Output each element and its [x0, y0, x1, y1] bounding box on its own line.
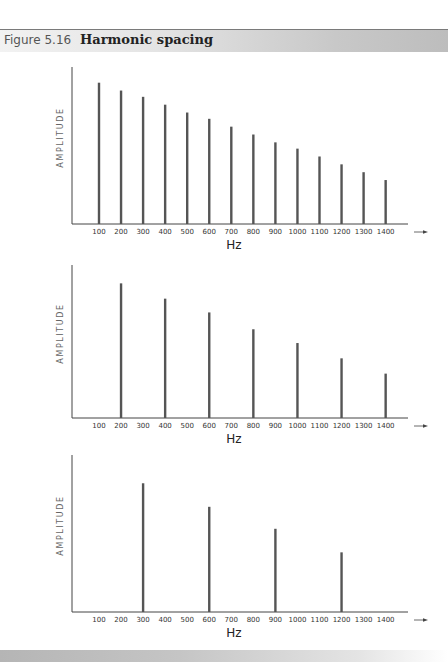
harmonic-bar-900	[274, 529, 276, 612]
y-axis-label: AMPLITUDE	[56, 475, 65, 575]
x-axis-label: Hz	[0, 626, 448, 640]
bottom-rule	[0, 650, 448, 662]
harmonic-bar-1200	[340, 552, 342, 612]
chart-plot	[0, 0, 448, 652]
harmonic-chart-300hz: 1002003004005006007008009001000110012001…	[0, 0, 448, 650]
x-tick-label: 1400	[371, 616, 401, 624]
harmonic-bar-300	[142, 483, 144, 612]
harmonic-bar-600	[208, 507, 210, 612]
arrow-right-icon	[423, 618, 428, 622]
